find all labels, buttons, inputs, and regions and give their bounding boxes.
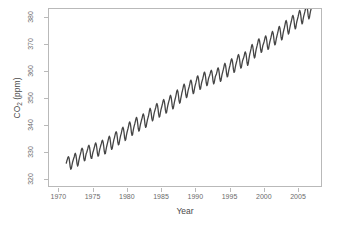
- x-tick-mark: [58, 188, 59, 192]
- y-tick-mark: [44, 179, 48, 180]
- plot-svg: [49, 9, 321, 186]
- x-axis-title: Year: [48, 206, 322, 216]
- x-tick-label: 2000: [256, 193, 272, 201]
- co2-series-line: [66, 9, 312, 169]
- x-tick-mark: [298, 188, 299, 192]
- y-tick-mark: [44, 125, 48, 126]
- y-tick-mark: [44, 44, 48, 45]
- y-tick-mark: [44, 152, 48, 153]
- x-tick-label: 1975: [85, 193, 101, 201]
- x-tick-mark: [161, 188, 162, 192]
- x-tick-mark: [264, 188, 265, 192]
- y-tick-label: 340: [27, 119, 35, 131]
- x-tick-label: 1985: [153, 193, 169, 201]
- y-tick-label: 350: [27, 92, 35, 104]
- y-tick-label: 380: [27, 12, 35, 24]
- x-tick-label: 1980: [119, 193, 135, 201]
- x-tick-label: 2005: [290, 193, 306, 201]
- co2-line-chart-figure: 320330340350360370380 197019751980198519…: [0, 0, 337, 226]
- x-tick-mark: [195, 188, 196, 192]
- x-tick-label: 1995: [222, 193, 238, 201]
- x-tick-label: 1990: [188, 193, 204, 201]
- x-tick-mark: [93, 188, 94, 192]
- x-tick-mark: [230, 188, 231, 192]
- plot-area: [48, 8, 322, 187]
- y-tick-label: 360: [27, 65, 35, 77]
- x-tick-label: 1970: [51, 193, 67, 201]
- y-axis-title-container: CO2 (ppm): [10, 8, 24, 187]
- y-tick-mark: [44, 98, 48, 99]
- y-tick-label: 370: [27, 38, 35, 50]
- y-tick-mark: [44, 17, 48, 18]
- y-tick-label: 320: [27, 173, 35, 185]
- y-axis-title: CO2 (ppm): [12, 77, 23, 118]
- y-tick-mark: [44, 71, 48, 72]
- y-tick-label: 330: [27, 146, 35, 158]
- x-tick-mark: [127, 188, 128, 192]
